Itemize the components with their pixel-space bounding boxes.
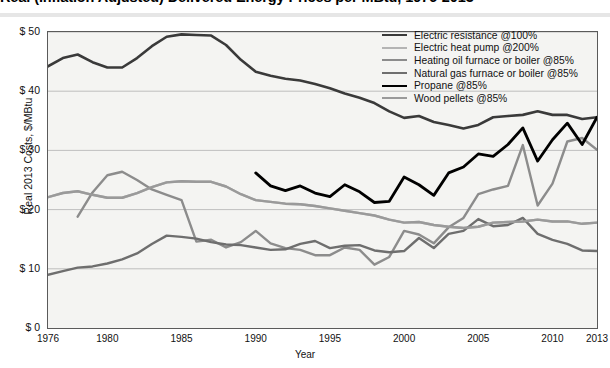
legend-item: Natural gas furnace or boiler @85% <box>382 67 604 80</box>
y-tick-label: $ 20 <box>0 203 40 215</box>
legend-item-label: Electric heat pump @200% <box>414 42 539 53</box>
legend-color-swatch <box>382 59 407 61</box>
data-series-line <box>48 181 597 228</box>
x-tick-label: 1976 <box>18 333 78 344</box>
chart-title: Real (Inflation Adjusted) Delivered Ener… <box>0 0 610 5</box>
legend-color-swatch <box>382 34 407 36</box>
legend-item-label: Propane @85% <box>414 80 487 91</box>
x-tick-label: 2013 <box>567 333 610 344</box>
x-tick-label: 1990 <box>226 333 286 344</box>
y-tick-label: $ 30 <box>0 143 40 155</box>
legend-item: Heating oil furnace or boiler @85% <box>382 54 604 67</box>
legend-item-label: Wood pellets @85% <box>414 93 507 104</box>
x-tick-label: 1995 <box>300 333 360 344</box>
legend-item: Electric heat pump @200% <box>382 42 604 55</box>
x-tick-label: 1980 <box>77 333 137 344</box>
chart-title-banner: Real (Inflation Adjusted) Delivered Ener… <box>0 0 610 13</box>
data-series-line <box>78 138 597 265</box>
legend-color-swatch <box>382 47 407 49</box>
x-tick-label: 1985 <box>152 333 212 344</box>
x-axis-label: Year <box>0 349 610 360</box>
legend-item-label: Electric resistance @100% <box>414 30 537 41</box>
data-series-line <box>256 117 597 202</box>
chart-legend: Electric resistance @100%Electric heat p… <box>382 29 604 105</box>
legend-item: Electric resistance @100% <box>382 29 604 42</box>
title-divider <box>0 13 610 17</box>
legend-item: Wood pellets @85% <box>382 92 604 105</box>
x-tick-label: 2000 <box>374 333 434 344</box>
y-tick-label: $ 0 <box>0 321 40 333</box>
legend-item-label: Natural gas furnace or boiler @85% <box>414 68 578 79</box>
chart-figure: Real (Inflation Adjusted) Delivered Ener… <box>0 0 610 368</box>
x-tick-label: 2005 <box>448 333 508 344</box>
y-tick-label: $ 40 <box>0 84 40 96</box>
legend-item-label: Heating oil furnace or boiler @85% <box>414 55 574 66</box>
y-tick-label: $ 10 <box>0 262 40 274</box>
legend-color-swatch <box>382 72 407 74</box>
data-series-line <box>48 218 597 275</box>
legend-color-swatch <box>382 97 407 99</box>
y-tick-label: $ 50 <box>0 25 40 37</box>
legend-item: Propane @85% <box>382 79 604 92</box>
legend-color-swatch <box>382 85 407 87</box>
